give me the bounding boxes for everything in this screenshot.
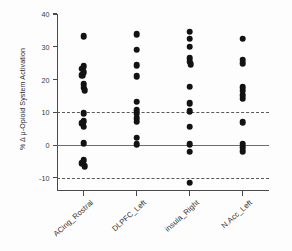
y-tick-label: 0	[46, 141, 50, 150]
data-point	[186, 100, 193, 107]
data-point	[133, 119, 140, 126]
data-point	[80, 33, 87, 40]
data-point	[82, 163, 89, 170]
data-point	[239, 119, 246, 126]
x-tick-ACing_Rostral	[83, 191, 84, 196]
x-category-label-DLPFC_Left: DLPFC_Left	[110, 198, 148, 233]
data-point	[80, 123, 87, 130]
data-point	[186, 141, 193, 148]
data-point	[186, 123, 193, 130]
data-point	[239, 148, 246, 155]
x-tick-insula_Right	[189, 191, 190, 196]
data-point	[186, 43, 193, 50]
y-tick-label: 20	[42, 75, 50, 84]
data-point	[133, 73, 140, 80]
reference-line--10	[57, 178, 269, 179]
data-point	[80, 140, 87, 147]
x-tick-DLPFC_Left	[136, 191, 137, 196]
y-tick-40: 40	[53, 13, 58, 14]
data-point	[80, 110, 87, 117]
x-axis-line	[57, 190, 269, 191]
x-category-label-insula_Right: insula_Right	[163, 198, 201, 233]
x-tick-N.Acc_Left	[242, 191, 243, 196]
x-category-label-N.Acc_Left: N.Acc_Left	[219, 198, 253, 230]
y-tick-label: -10	[39, 173, 49, 182]
data-point	[186, 83, 193, 90]
y-axis-line	[57, 14, 58, 191]
y-tick-label: 10	[42, 108, 50, 117]
y-tick-20: 20	[53, 79, 58, 80]
data-point	[239, 35, 246, 42]
data-point	[133, 141, 140, 148]
data-point	[188, 61, 195, 68]
y-tick-30: 30	[53, 46, 58, 47]
plot-area: 403020100-10	[57, 14, 269, 191]
data-point	[82, 87, 89, 94]
data-point	[186, 180, 193, 187]
data-point	[133, 98, 140, 105]
data-point	[239, 60, 246, 67]
data-point	[133, 62, 140, 69]
data-point	[186, 148, 193, 155]
y-tick-label: 40	[42, 10, 50, 19]
data-point	[133, 46, 140, 53]
data-point	[133, 31, 140, 38]
scatter-plot-figure: % Δ μ-Opioid System Activation 403020100…	[0, 0, 292, 251]
data-point	[79, 72, 86, 79]
data-point	[186, 35, 193, 42]
y-tick-label: 30	[42, 42, 50, 51]
data-point	[239, 95, 246, 102]
data-point	[186, 28, 193, 35]
data-point	[186, 108, 193, 115]
reference-line-0	[57, 145, 269, 146]
x-category-label-ACing_Rostral: ACing_Rostral	[51, 198, 94, 238]
reference-line-10	[57, 112, 269, 113]
y-axis-title: % Δ μ-Opioid System Activation	[19, 14, 27, 184]
